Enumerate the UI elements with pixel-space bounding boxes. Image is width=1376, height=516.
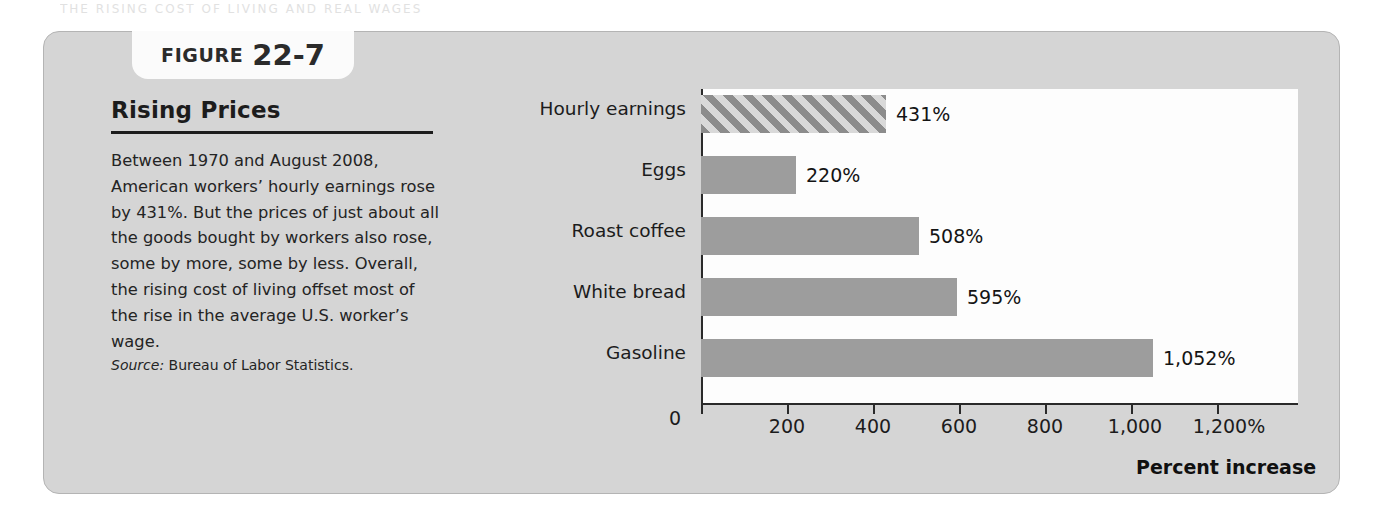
x-axis-line	[701, 403, 1298, 405]
bar-value-roast-coffee: 508%	[929, 225, 983, 247]
figure-label: FIGURE	[161, 44, 243, 66]
x-tick-1000	[1131, 405, 1133, 414]
x-tick-labels: 200 400 600 800 1,000 1,200%	[701, 415, 1298, 441]
figure-number-tab: FIGURE 22-7	[132, 31, 354, 79]
x-tick-label-800: 800	[1027, 415, 1063, 437]
x-tick-label-200: 200	[769, 415, 805, 437]
x-tick-0	[701, 405, 703, 414]
chart-category-labels: Hourly earnings Eggs Roast coffee White …	[484, 89, 696, 405]
bar-eggs	[701, 156, 796, 194]
category-label-roast-coffee: Roast coffee	[572, 220, 686, 241]
figure-source: Source: Bureau of Labor Statistics.	[111, 357, 441, 373]
x-tick-label-1000: 1,000	[1108, 415, 1162, 437]
x-tick-600	[959, 405, 961, 414]
figure-description: Between 1970 and August 2008, American w…	[111, 148, 443, 354]
figure-text-column: Rising Prices Between 1970 and August 20…	[111, 97, 441, 373]
title-divider	[111, 131, 433, 134]
category-label-hourly-earnings: Hourly earnings	[539, 98, 686, 119]
x-tick-label-400: 400	[855, 415, 891, 437]
category-label-eggs: Eggs	[641, 159, 686, 180]
category-label-white-bread: White bread	[573, 281, 686, 302]
x-tick-400	[873, 405, 875, 414]
x-tick-200	[787, 405, 789, 414]
bar-value-eggs: 220%	[806, 164, 860, 186]
chart-plot-area: 431% 220% 508% 595% 1,052%	[701, 89, 1298, 405]
source-text: Bureau of Labor Statistics.	[169, 357, 354, 373]
bar-white-bread	[701, 278, 957, 316]
category-label-gasoline: Gasoline	[606, 342, 686, 363]
page-title: Rising Prices	[111, 97, 441, 123]
bar-value-gasoline: 1,052%	[1163, 347, 1235, 369]
x-tick-label-600: 600	[941, 415, 977, 437]
bar-hourly-earnings	[701, 95, 886, 133]
x-tick-label-0: 0	[669, 407, 681, 429]
bar-value-white-bread: 595%	[967, 286, 1021, 308]
x-axis-title: Percent increase	[1136, 456, 1316, 478]
x-tick-label-1200: 1,200%	[1193, 415, 1265, 437]
x-tick-800	[1045, 405, 1047, 414]
bar-gasoline	[701, 339, 1153, 377]
page-bleed-text: THE RISING COST OF LIVING AND REAL WAGES	[60, 2, 960, 18]
bar-roast-coffee	[701, 217, 919, 255]
source-label: Source:	[111, 357, 164, 373]
figure-panel: FIGURE 22-7 Rising Prices Between 1970 a…	[43, 31, 1340, 494]
x-tick-1200	[1217, 405, 1219, 414]
figure-number: 22-7	[252, 38, 325, 72]
bar-value-hourly-earnings: 431%	[896, 103, 950, 125]
